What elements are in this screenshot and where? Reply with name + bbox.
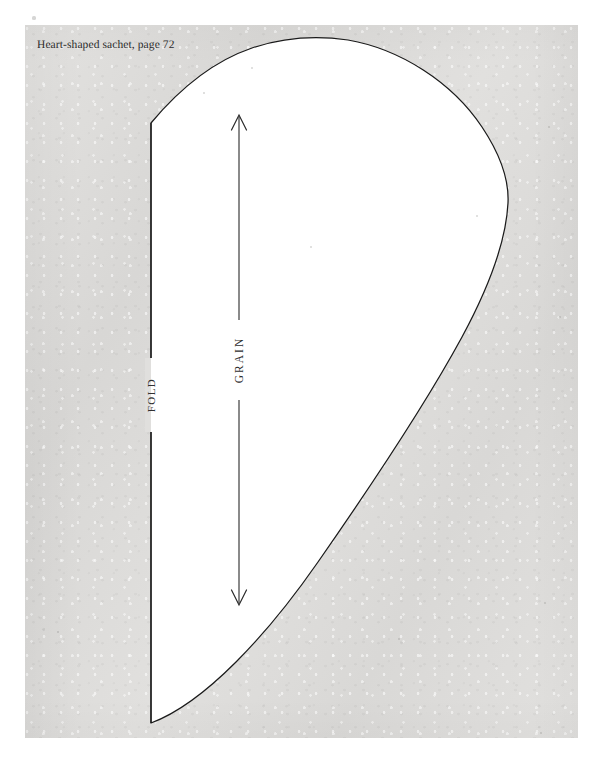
scan-speck xyxy=(398,638,400,640)
page-caption: Heart-shaped sachet, page 72 xyxy=(37,38,175,52)
scan-speck xyxy=(32,16,35,19)
grain-label: GRAIN xyxy=(233,337,245,383)
scan-speck xyxy=(42,628,45,631)
fold-label: FOLD xyxy=(145,378,157,412)
scan-speck xyxy=(203,92,205,94)
pattern-sheet-page: FOLD GRAIN Heart-shaped sachet, page 72 xyxy=(0,0,609,766)
scan-speck xyxy=(310,246,312,248)
pattern-artwork xyxy=(0,0,609,766)
scan-speck xyxy=(57,631,59,633)
half-heart-outline xyxy=(151,38,508,723)
